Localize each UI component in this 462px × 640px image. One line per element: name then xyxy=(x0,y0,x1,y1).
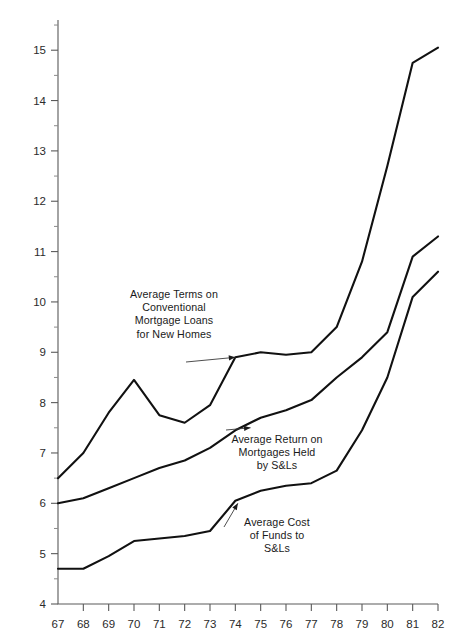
svg-text:11: 11 xyxy=(34,246,46,258)
svg-text:7: 7 xyxy=(40,447,46,459)
arrowhead-icon xyxy=(244,426,251,431)
svg-text:5: 5 xyxy=(40,548,46,560)
series-line-0 xyxy=(58,48,438,478)
annotation-average-return: Average Return on Mortgages Held by S&Ls xyxy=(214,433,340,473)
svg-text:9: 9 xyxy=(40,346,46,358)
svg-text:14: 14 xyxy=(33,95,46,107)
svg-text:70: 70 xyxy=(128,618,141,630)
svg-text:79: 79 xyxy=(356,618,369,630)
svg-text:75: 75 xyxy=(254,618,267,630)
svg-text:8: 8 xyxy=(40,397,46,409)
svg-text:80: 80 xyxy=(381,618,394,630)
annotation-average-terms: Average Terms on Conventional Mortgage L… xyxy=(106,288,242,341)
svg-text:78: 78 xyxy=(330,618,343,630)
svg-text:72: 72 xyxy=(178,618,191,630)
svg-text:15: 15 xyxy=(33,44,46,56)
svg-text:74: 74 xyxy=(229,618,242,630)
svg-text:67: 67 xyxy=(52,618,65,630)
svg-text:69: 69 xyxy=(102,618,115,630)
svg-text:76: 76 xyxy=(280,618,293,630)
svg-text:73: 73 xyxy=(204,618,217,630)
svg-text:77: 77 xyxy=(305,618,318,630)
svg-text:71: 71 xyxy=(153,618,166,630)
svg-text:82: 82 xyxy=(432,618,445,630)
svg-text:4: 4 xyxy=(40,598,47,610)
svg-text:12: 12 xyxy=(33,195,46,207)
svg-text:6: 6 xyxy=(40,497,46,509)
svg-text:10: 10 xyxy=(33,296,46,308)
svg-text:81: 81 xyxy=(406,618,419,630)
svg-text:68: 68 xyxy=(77,618,90,630)
line-chart: 4567891011121314156768697071727374757677… xyxy=(0,0,462,640)
annotation-average-cost: Average Cost of Funds to S&Ls xyxy=(222,516,332,556)
svg-text:13: 13 xyxy=(33,145,46,157)
